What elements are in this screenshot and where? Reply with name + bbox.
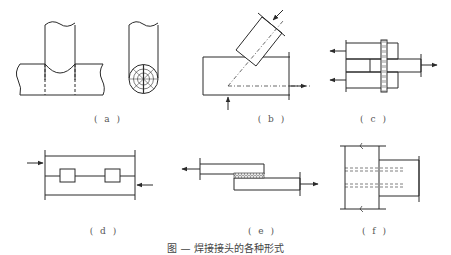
- panel-b-angled-joint: [203, 10, 310, 110]
- panel-b-label: ( b ): [258, 114, 287, 124]
- panel-e-lap-joint: [182, 158, 318, 196]
- panel-c-label: ( c ): [360, 114, 388, 124]
- panel-c-double-lap: [330, 40, 437, 92]
- panel-f-label: ( f ): [362, 226, 388, 236]
- panel-a-tee-pipe: [16, 22, 104, 95]
- panel-d-label: ( d ): [90, 226, 119, 236]
- panel-a-end-view: [129, 22, 158, 94]
- panel-a-label: ( a ): [94, 114, 122, 124]
- panel-e-label: ( e ): [248, 226, 276, 236]
- panel-f-t-connection: [340, 143, 419, 212]
- panel-d-block-joint: [27, 150, 153, 200]
- figure-caption: 图 — 焊接接头的各种形式: [167, 240, 283, 255]
